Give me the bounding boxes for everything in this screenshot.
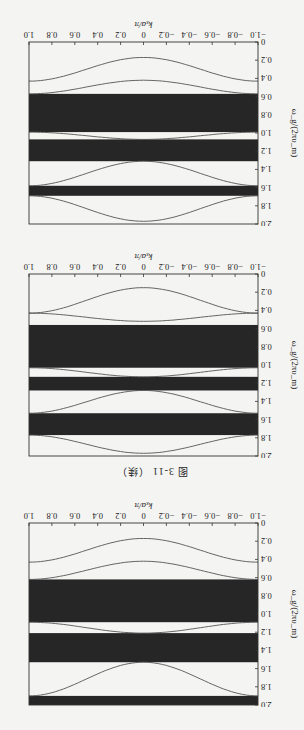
x-tick-label: 1.0: [24, 511, 35, 521]
chart-c: −1.0−0.8−0.6−0.4−0.200.20.40.60.81.000.2…: [0, 502, 304, 707]
y-tick-label: 2.0: [261, 219, 272, 226]
dispersion-curve-3: [29, 368, 258, 377]
y-tick-label: 0.8: [261, 110, 272, 120]
x-tick-label: 1.0: [24, 30, 35, 40]
dispersion-curve-3: [29, 132, 258, 139]
x-tick-label: −0.2: [159, 30, 174, 40]
dispersion-curve-3: [29, 622, 258, 633]
y-tick-label: 2.0: [261, 451, 272, 458]
dispersion-curve-4: [29, 662, 258, 696]
dispersion-curve-5: [29, 435, 258, 453]
y-tick-label: 0: [261, 269, 265, 279]
y-tick-label: 0.6: [261, 324, 272, 334]
x-tick-label: −0.4: [181, 30, 197, 40]
x-tick-label: 0.4: [92, 511, 103, 521]
x-tick-label: 0: [141, 511, 145, 521]
chart-a: −1.0−0.8−0.6−0.4−0.200.20.40.60.81.000.2…: [0, 253, 304, 458]
x-tick-label: −0.4: [181, 511, 197, 521]
dispersion-curve-4: [29, 161, 258, 186]
plot-frame: [29, 42, 258, 224]
y-tick-label: 0.6: [261, 573, 272, 583]
y-tick-label: 1.6: [261, 183, 272, 193]
y-axis-label: ω_g/(2πυ_m): [290, 341, 300, 389]
y-tick-label: 1.0: [261, 609, 272, 619]
y-tick-label: 1.8: [261, 682, 272, 692]
y-tick-label: 0.8: [261, 591, 272, 601]
dispersion-curve-1: [29, 288, 258, 313]
y-tick-label: 0: [261, 518, 265, 528]
y-tick-label: 0.4: [260, 305, 271, 315]
band-gap-1: [29, 325, 258, 368]
panel-c: −1.0−0.8−0.6−0.4−0.200.20.40.60.81.000.2…: [0, 502, 304, 707]
band-gap-2: [29, 633, 258, 662]
chart-b: −1.0−0.8−0.6−0.4−0.200.20.40.60.81.000.2…: [0, 21, 304, 226]
y-tick-label: 0.2: [261, 287, 272, 297]
dispersion-curve-4: [29, 391, 258, 414]
x-axis-label: kₓa/π: [134, 502, 153, 511]
x-tick-label: −0.4: [181, 262, 197, 272]
y-axis-label: ω_g/(2πυ_m): [290, 109, 300, 157]
x-tick-label: 0.8: [47, 511, 58, 521]
y-tick-label: 2.0: [261, 700, 272, 707]
y-tick-label: 0.8: [261, 342, 272, 352]
y-tick-label: 1.6: [261, 415, 272, 425]
x-tick-label: −0.6: [204, 511, 219, 521]
x-tick-label: 0.4: [92, 30, 103, 40]
y-tick-label: 1.0: [261, 360, 272, 370]
dispersion-curve-1: [29, 539, 258, 563]
band-gap-2: [29, 139, 258, 161]
dispersion-curve-2: [29, 80, 258, 94]
y-tick-label: 1.4: [260, 396, 271, 406]
x-axis-label: kₓa/π: [134, 21, 153, 30]
x-tick-label: −0.8: [227, 511, 242, 521]
y-tick-label: 1.6: [261, 664, 272, 674]
x-tick-label: −0.6: [204, 30, 219, 40]
y-tick-label: 1.8: [261, 433, 272, 443]
x-tick-label: 0.8: [47, 30, 58, 40]
y-tick-label: 0.2: [261, 536, 272, 546]
figure-page: −1.0−0.8−0.6−0.4−0.200.20.40.60.81.000.2…: [0, 0, 304, 730]
y-tick-label: 1.2: [261, 378, 272, 388]
dispersion-curve-5: [29, 196, 258, 222]
x-tick-label: 1.0: [24, 262, 35, 272]
x-tick-label: −0.6: [204, 262, 219, 272]
x-tick-label: 0.6: [69, 262, 80, 272]
y-tick-label: 1.0: [261, 128, 272, 138]
dispersion-curve-2: [29, 313, 258, 321]
figure-caption: 图 3-11 （续）: [0, 465, 304, 480]
y-tick-label: 0.6: [261, 92, 272, 102]
x-tick-label: 0.6: [69, 30, 80, 40]
y-tick-label: 1.2: [261, 146, 272, 156]
band-gap-1: [29, 94, 258, 132]
x-tick-label: 0: [141, 262, 145, 272]
dispersion-curve-1: [29, 58, 258, 82]
band-gap-2: [29, 377, 258, 391]
x-tick-label: −0.8: [227, 30, 242, 40]
x-tick-label: 0.8: [47, 262, 58, 272]
x-tick-label: 0.2: [115, 262, 126, 272]
x-tick-label: −0.2: [159, 262, 174, 272]
x-tick-label: −0.2: [159, 511, 174, 521]
y-tick-label: 0: [261, 37, 265, 47]
y-tick-label: 0.2: [261, 55, 272, 65]
y-tick-label: 1.4: [260, 645, 271, 655]
panel-a: −1.0−0.8−0.6−0.4−0.200.20.40.60.81.000.2…: [0, 253, 304, 458]
x-axis-label: kₓa/π: [134, 253, 153, 262]
x-tick-label: −0.8: [227, 262, 242, 272]
x-tick-label: 0.2: [115, 511, 126, 521]
y-axis-label: ω_g/(2πυ_m): [290, 590, 300, 638]
y-tick-label: 1.2: [261, 627, 272, 637]
band-gap-3: [29, 413, 258, 435]
x-tick-label: 0.2: [115, 30, 126, 40]
band-gap-3: [29, 186, 258, 196]
dispersion-curve-2: [29, 561, 258, 579]
panel-b: −1.0−0.8−0.6−0.4−0.200.20.40.60.81.000.2…: [0, 21, 304, 226]
x-tick-label: 0: [141, 30, 145, 40]
x-tick-label: 0.4: [92, 262, 103, 272]
y-tick-label: 1.8: [261, 201, 272, 211]
band-gap-1: [29, 579, 258, 622]
y-tick-label: 0.4: [260, 554, 271, 564]
band-gap-3: [29, 696, 258, 705]
y-tick-label: 1.4: [260, 164, 271, 174]
y-tick-label: 0.4: [260, 73, 271, 83]
